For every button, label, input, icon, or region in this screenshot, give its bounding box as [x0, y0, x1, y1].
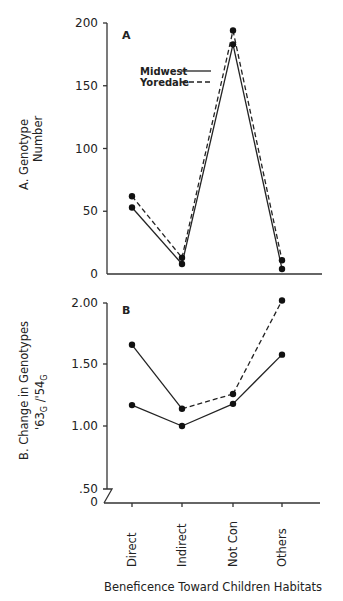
panel-b-ylabel-line1: B. Change in Genotypes: [17, 321, 31, 460]
data-point-yoredale: [279, 257, 285, 263]
data-point-yoredale: [129, 342, 135, 348]
panel-b-axis-break: [103, 489, 112, 503]
data-point-yoredale: [129, 193, 135, 199]
panel-a-ytick-150: 150: [75, 79, 98, 93]
data-point-midwest: [230, 401, 236, 407]
series-segment-midwest: [132, 207, 182, 263]
panel-b-y-label: B. Change in Genotypes '63G /'54G: [17, 321, 49, 460]
panel-b-series: [129, 297, 285, 429]
category-others: Others: [275, 528, 289, 567]
legend-midwest-label: Midwest: [140, 66, 188, 77]
data-point-midwest: [129, 402, 135, 408]
panel-b-ytick-1-50: 1.50: [71, 357, 98, 371]
data-point-midwest: [179, 423, 185, 429]
category-indirect: Indirect: [175, 523, 189, 567]
panel-a-ytick-50: 50: [83, 204, 98, 218]
data-point-midwest: [129, 204, 135, 210]
chart-figure: 200 150 100 50 0 A Midwest Yoredale A. G…: [0, 0, 343, 601]
series-segment-yoredale: [132, 345, 182, 409]
x-axis-label: Beneficence Toward Children Habitats: [104, 580, 322, 594]
panel-b-ytick-0: 0: [90, 495, 98, 509]
panel-a-ylabel-line2: Number: [31, 116, 45, 162]
series-segment-yoredale: [182, 31, 233, 258]
panel-b-ytick-2-00: 2.00: [71, 296, 98, 310]
category-not-con: Not Con: [226, 521, 240, 567]
data-point-yoredale: [179, 406, 185, 412]
series-segment-midwest: [233, 44, 282, 269]
panel-a-ytick-200: 200: [75, 16, 98, 30]
series-segment-yoredale: [233, 31, 282, 261]
data-point-yoredale: [230, 391, 236, 397]
panel-a-ylabel-line1: A. Genotype: [17, 119, 31, 190]
series-segment-midwest: [182, 404, 233, 426]
panel-a: 200 150 100 50 0 A Midwest Yoredale A. G…: [17, 16, 322, 281]
data-point-midwest: [279, 266, 285, 272]
series-segment-midwest: [182, 44, 233, 264]
data-point-midwest: [179, 261, 185, 267]
data-point-midwest: [279, 351, 285, 357]
panel-b-y-ticks: 2.00 1.50 1.00 .50 0: [71, 296, 107, 509]
series-segment-yoredale: [132, 196, 182, 257]
panel-a-letter: A: [122, 29, 131, 42]
panel-b-letter: B: [122, 304, 130, 317]
panel-a-ytick-0: 0: [90, 267, 98, 281]
data-point-yoredale: [279, 297, 285, 303]
panel-b: 2.00 1.50 1.00 .50 0 B B. Change in Geno…: [17, 296, 320, 509]
panel-a-y-label: A. Genotype Number: [17, 116, 45, 190]
category-direct: Direct: [125, 532, 139, 567]
panel-b-ytick-0-50: .50: [79, 482, 98, 496]
x-category-labels: Direct Indirect Not Con Others: [125, 521, 289, 567]
panel-a-series: [129, 27, 285, 272]
panel-b-ylabel-line2: '63G /'54G: [33, 374, 49, 430]
data-point-yoredale: [230, 27, 236, 33]
panel-b-ytick-1-00: 1.00: [71, 419, 98, 433]
series-segment-midwest: [132, 405, 182, 426]
panel-a-ytick-100: 100: [75, 142, 98, 156]
panel-a-y-ticks: 200 150 100 50 0: [75, 16, 107, 281]
legend: Midwest Yoredale: [139, 66, 211, 88]
data-point-yoredale: [179, 254, 185, 260]
